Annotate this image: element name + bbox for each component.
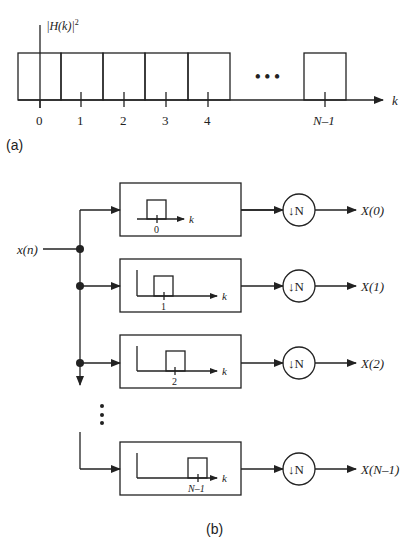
tick-label-3: 3: [162, 113, 169, 128]
filter-block-2: [120, 335, 241, 388]
branch-1: [120, 259, 356, 312]
decimator-label-0: ↓N: [288, 203, 305, 218]
decimator-label-2: ↓N: [288, 356, 305, 371]
filter-block-n-1: [120, 442, 241, 495]
part-a-labels: |H(k)|2 k 0 1 2 3 4 N–1 • • • (a): [6, 18, 398, 153]
filter-tick-2: 2: [172, 376, 177, 387]
filter-bank-diagram: |H(k)|2 k 0 1 2 3 4 N–1 • • • (a): [0, 0, 417, 549]
vertical-ellipsis: [100, 404, 104, 425]
tick-label-n-1: N–1: [312, 113, 335, 128]
filter-block-1: [120, 259, 241, 312]
filter-axis-k-2: k: [222, 365, 228, 377]
tick-label-4: 4: [204, 113, 211, 128]
caption-a: (a): [6, 137, 23, 153]
tick-label-1: 1: [77, 113, 84, 128]
filter-tick-n-1: N–1: [187, 483, 205, 494]
tick-label-2: 2: [120, 113, 127, 128]
band-4: [188, 53, 230, 100]
branch-n-1: [120, 442, 356, 495]
output-label-1: X(1): [360, 279, 384, 294]
decimator-label-1: ↓N: [288, 279, 305, 294]
filter-block-0: [120, 183, 241, 236]
part-a-spectrum: [18, 25, 383, 108]
decimator-label-n-1: ↓N: [288, 462, 305, 477]
output-label-2: X(2): [360, 356, 384, 371]
ellipsis: • • •: [255, 68, 280, 85]
caption-b: (b): [206, 521, 223, 537]
branch-2: [120, 335, 356, 388]
filter-axis-k-n-1: k: [222, 472, 228, 484]
filter-axis-k-0: k: [189, 213, 195, 225]
output-label-0: X(0): [360, 203, 384, 218]
input-label: x(n): [16, 242, 38, 257]
filter-tick-1: 1: [161, 301, 166, 312]
x-axis-label-k: k: [392, 93, 398, 108]
band-1: [61, 53, 103, 100]
part-b-labels: x(n) 0 k ↓N X(0) 1 k ↓N X(1) 2 k ↓N X(2)…: [16, 203, 399, 537]
tick-label-0: 0: [36, 113, 43, 128]
output-label-n-1: X(N–1): [360, 462, 399, 477]
y-axis-label: |H(k)|2: [47, 18, 79, 33]
filter-tick-0: 0: [154, 224, 159, 235]
filter-axis-k-1: k: [222, 290, 228, 302]
